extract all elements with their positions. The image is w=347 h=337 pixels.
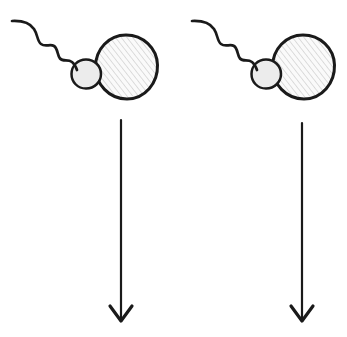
head-right: [273, 35, 335, 99]
head-left: [96, 35, 158, 99]
midpiece-right: [252, 60, 282, 89]
figure-canvas: [0, 0, 347, 337]
midpiece-left: [72, 60, 102, 89]
sperm-diagram-svg: [0, 0, 347, 337]
